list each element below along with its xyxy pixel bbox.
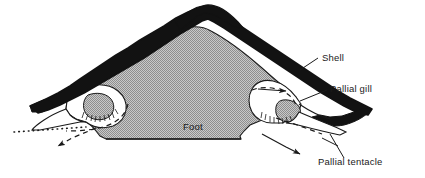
label-pallial-gill: Pallial gill xyxy=(330,83,372,94)
left-exhalant-dashed-arrow xyxy=(58,128,96,146)
limpet-cross-section-figure: Shell Pallial gill Foot Pallial tentacle xyxy=(0,0,425,178)
shell-left-tip xyxy=(30,99,54,112)
left-pallial-gill-leaflet xyxy=(84,93,114,119)
label-pallial-tentacle: Pallial tentacle xyxy=(318,156,382,167)
pallial-tentacle-leader-cross xyxy=(322,138,338,146)
pallial-gill-leader-line xyxy=(300,90,327,101)
diagram-canvas: Shell Pallial gill Foot Pallial tentacle xyxy=(0,0,425,178)
label-shell: Shell xyxy=(322,52,344,63)
right-pallial-cavity-group xyxy=(249,80,301,124)
shell-leader-line xyxy=(300,58,318,70)
label-foot: Foot xyxy=(183,121,203,132)
right-exhalant-solid-arrow xyxy=(262,134,300,154)
